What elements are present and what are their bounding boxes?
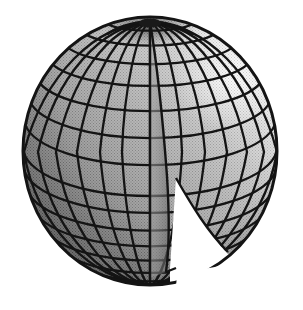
pole-knot [139,19,161,28]
sphere-rendering [0,0,303,310]
figure-canvas: Shaded wireframe sphere with cut-away se… [0,0,303,310]
